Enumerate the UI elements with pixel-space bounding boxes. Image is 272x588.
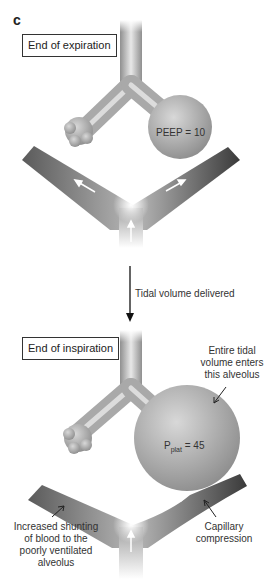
- annotation-capillary-line: compression: [188, 533, 260, 545]
- annotation-alveolus-line: volume enters: [192, 357, 272, 369]
- annotation-alveolus-line: Entire tidal: [192, 345, 272, 357]
- state-label-expiration: End of expiration: [22, 34, 117, 57]
- annotation-shunt-line: alveolus: [6, 557, 106, 569]
- annotation-capillary: Capillary compression: [188, 521, 260, 545]
- annotation-shunt-line: of blood to the: [6, 533, 106, 545]
- plateau-pressure-label: Pplat = 45: [164, 440, 205, 453]
- transition-arrow: [126, 266, 134, 322]
- top-collapsed-alveolus: [64, 117, 93, 147]
- peep-label: PEEP = 10: [156, 127, 205, 138]
- annotation-shunt: Increased shunting of blood to the poorl…: [6, 521, 106, 569]
- annotation-shunt-line: poorly ventilated: [6, 545, 106, 557]
- annotation-alveolus: Entire tidal volume enters this alveolus: [192, 345, 272, 381]
- plateau-subscript: plat: [171, 446, 182, 453]
- transition-label: Tidal volume delivered: [135, 288, 235, 299]
- bottom-collapsed-alveolus: [63, 424, 92, 454]
- state-label-inspiration: End of inspiration: [22, 337, 119, 360]
- plateau-symbol: P: [164, 440, 171, 451]
- plateau-value: = 45: [182, 440, 205, 451]
- annotation-shunt-line: Increased shunting: [6, 521, 106, 533]
- panel-letter: c: [13, 12, 21, 28]
- annotation-capillary-line: Capillary: [188, 521, 260, 533]
- bottom-overdistended-alveolus: [134, 385, 240, 491]
- annotation-alveolus-line: this alveolus: [192, 369, 272, 381]
